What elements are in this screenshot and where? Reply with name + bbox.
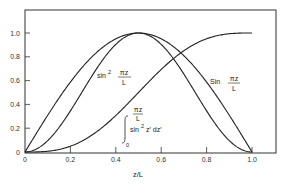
svg-text:0: 0 (126, 142, 129, 148)
curves (25, 33, 252, 152)
x-tick-label: 0 (23, 156, 27, 163)
svg-text:sin: sin (130, 126, 139, 133)
x-axis-label: z/L (133, 170, 143, 179)
sin-label: Sin πz L (210, 75, 240, 92)
svg-text:πz: πz (134, 106, 143, 113)
y-tick-label: 0.6 (10, 77, 20, 84)
svg-text:L: L (122, 79, 126, 86)
svg-text:L: L (136, 115, 140, 122)
svg-text:L: L (232, 85, 236, 92)
x-tick-label: 0.6 (156, 156, 166, 163)
x-tick-label: 0.2 (66, 156, 76, 163)
svg-text:sin: sin (97, 72, 106, 79)
svg-text:2: 2 (108, 69, 111, 75)
x-tick-label: 0.8 (202, 156, 212, 163)
y-tick-label: 0.4 (10, 101, 20, 108)
integral-label: πz L 0 sin 2 z′ dz′ (122, 106, 162, 148)
y-tick-label: 0.2 (10, 125, 20, 132)
y-tick-label: 0.8 (10, 53, 20, 60)
y-tick-label: 1.0 (10, 30, 20, 37)
x-tick-label: 0.4 (111, 156, 121, 163)
x-tick-label: 1.0 (247, 156, 257, 163)
svg-text:πz: πz (120, 69, 129, 76)
y-axis-ticks: 00.20.40.60.81.0 (10, 30, 30, 156)
svg-text:z′ dz′: z′ dz′ (146, 126, 162, 133)
chart: 00.20.40.60.81.0 00.20.40.60.81.0 z/L si… (0, 0, 283, 185)
sin-squared-label: sin 2 πz L (97, 69, 131, 86)
integral-curve (25, 33, 252, 152)
y-tick-label: 0 (16, 149, 20, 156)
svg-text:Sin: Sin (210, 78, 220, 85)
svg-text:2: 2 (141, 123, 144, 129)
svg-text:πz: πz (230, 75, 239, 82)
